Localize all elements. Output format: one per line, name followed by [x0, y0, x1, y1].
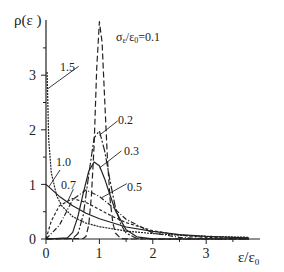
curve-label-0.2: 0.2 [118, 113, 133, 127]
curve-label-1.5: 1.5 [60, 60, 75, 74]
curve-0.3 [46, 162, 249, 239]
curve-label-0.7: 0.7 [61, 178, 76, 192]
leader-line [102, 184, 127, 198]
annotations [48, 66, 127, 202]
y-tick-2: 2 [29, 123, 36, 138]
curve-label-0.3: 0.3 [124, 144, 139, 158]
x-axis-title-main: ε/ε [238, 249, 255, 265]
x-tick-0: 0 [43, 246, 50, 261]
x-axis-title: ε/ε0 [238, 249, 260, 267]
param-value: =0.1 [138, 30, 160, 44]
curve-1.5 [47, 72, 249, 237]
param-label: σε/ε0=0.1 [116, 30, 160, 45]
x-axis-title-sub: 0 [255, 257, 260, 267]
curve-label-0.5: 0.5 [127, 180, 142, 194]
curve-0.5 [46, 190, 249, 239]
leader-line [99, 121, 117, 135]
param-mid: /ε [126, 30, 134, 44]
y-tick-3: 3 [29, 68, 36, 83]
curve-0.1 [46, 22, 249, 239]
x-tick-2: 2 [150, 246, 157, 261]
leader-line [99, 151, 121, 168]
curves [46, 22, 249, 239]
y-axis-title: ρ(ε ) [14, 12, 42, 29]
y-tick-1: 1 [29, 178, 36, 193]
leader-line [49, 170, 60, 187]
x-tick-3: 3 [203, 246, 210, 261]
chart: ρ(ε ) ε/ε0 σε/ε0=0.1 0 1 2 3 0 1 2 3 1.5… [0, 0, 284, 272]
curve-1.0 [46, 184, 249, 238]
axes [41, 20, 260, 244]
x-tick-1: 1 [96, 246, 103, 261]
y-tick-0: 0 [29, 232, 36, 247]
curve-label-1.0: 1.0 [56, 155, 71, 169]
